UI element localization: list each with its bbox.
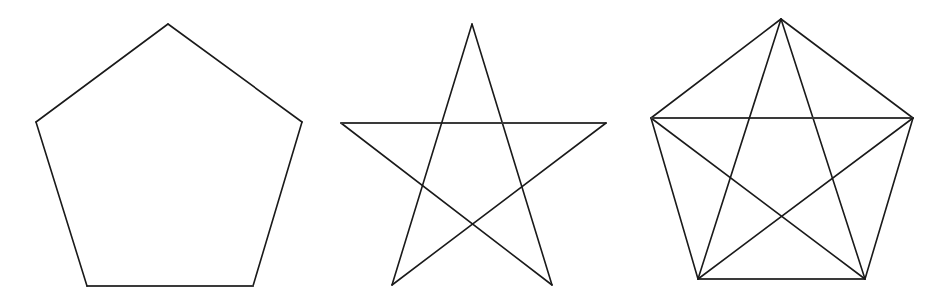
pentagram-drawing xyxy=(315,0,630,302)
edge-BC xyxy=(253,122,302,286)
edge-AC xyxy=(781,19,865,279)
pentagon-drawing xyxy=(0,0,315,302)
edge-DE xyxy=(36,122,87,286)
edge-BD xyxy=(698,118,913,279)
figure-complete-graph-k5 xyxy=(630,0,944,302)
edge-AB xyxy=(168,24,302,122)
edge-AB xyxy=(781,19,913,118)
edge-AC xyxy=(472,24,552,285)
edge-CE xyxy=(341,123,552,285)
edge-DE xyxy=(651,118,698,279)
complete-graph-k5-drawing xyxy=(630,0,944,302)
figure-sheet xyxy=(0,0,944,302)
edge-CE xyxy=(651,118,865,279)
edge-DA xyxy=(698,19,781,279)
edge-BD xyxy=(392,123,606,285)
edge-BC xyxy=(865,118,913,279)
edge-DA xyxy=(392,24,472,285)
figure-pentagram xyxy=(315,0,630,302)
figure-pentagon xyxy=(0,0,315,302)
edge-EA xyxy=(651,19,781,118)
edge-EA xyxy=(36,24,168,122)
